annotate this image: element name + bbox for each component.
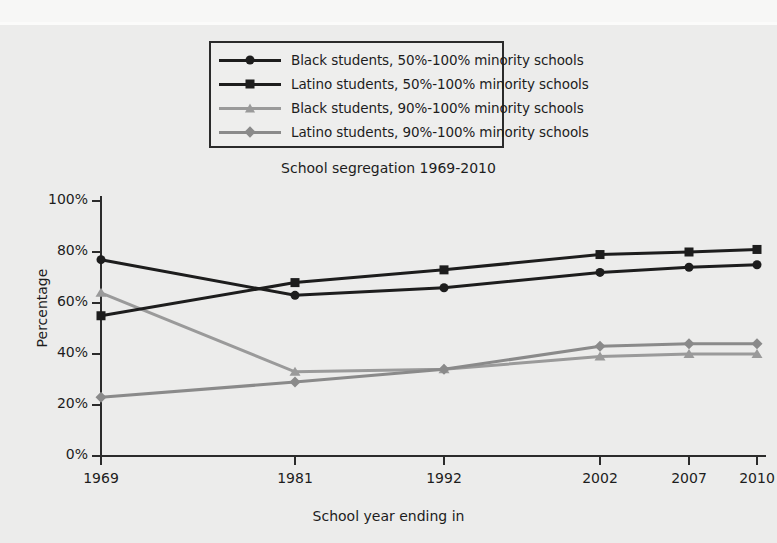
data-point-marker bbox=[291, 291, 300, 300]
data-point-marker bbox=[753, 245, 762, 254]
series-line bbox=[101, 249, 757, 315]
data-point-marker bbox=[596, 250, 605, 259]
data-point-marker bbox=[685, 248, 694, 257]
y-tick-label: 80% bbox=[30, 242, 88, 258]
data-point-marker bbox=[96, 288, 107, 297]
y-tick-label: 20% bbox=[30, 395, 88, 411]
x-tick-label: 2010 bbox=[722, 470, 777, 486]
y-tick-label: 100% bbox=[30, 191, 88, 207]
series-0 bbox=[97, 255, 762, 300]
x-tick-label: 1992 bbox=[409, 470, 479, 486]
x-tick-label: 1981 bbox=[260, 470, 330, 486]
data-point-marker bbox=[97, 255, 106, 264]
data-point-marker bbox=[752, 338, 763, 349]
x-tick-label: 1969 bbox=[66, 470, 136, 486]
data-point-marker bbox=[684, 338, 695, 349]
plot-area: Percentage School year ending in 0%20%40… bbox=[0, 0, 777, 543]
x-axis-title: School year ending in bbox=[0, 508, 777, 524]
data-point-marker bbox=[440, 265, 449, 274]
series-line bbox=[101, 260, 757, 296]
data-point-marker bbox=[440, 283, 449, 292]
series-line bbox=[101, 293, 757, 372]
chart-page: Black students, 50%-100% minority school… bbox=[0, 0, 777, 543]
data-point-marker bbox=[596, 268, 605, 277]
data-point-marker bbox=[595, 341, 606, 352]
data-point-marker bbox=[753, 260, 762, 269]
y-tick-label: 60% bbox=[30, 293, 88, 309]
data-point-marker bbox=[291, 278, 300, 287]
series-line bbox=[101, 344, 757, 398]
data-point-marker bbox=[685, 263, 694, 272]
y-tick-label: 40% bbox=[30, 344, 88, 360]
data-point-marker bbox=[96, 392, 107, 403]
plot-svg bbox=[0, 0, 777, 543]
series-1 bbox=[97, 245, 762, 320]
data-point-marker bbox=[290, 377, 301, 388]
x-tick-label: 2007 bbox=[654, 470, 724, 486]
x-tick-label: 2002 bbox=[565, 470, 635, 486]
data-point-marker bbox=[97, 311, 106, 320]
series-3 bbox=[96, 338, 763, 403]
y-tick-label: 0% bbox=[30, 446, 88, 462]
